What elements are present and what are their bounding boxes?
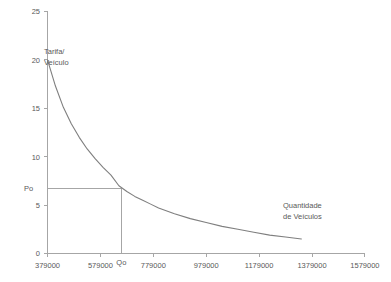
x-tick-label-1579000: 1579000 <box>350 261 379 270</box>
equilibrium-quantity-label: Qo <box>116 258 126 267</box>
y-tick-label-10: 10 <box>32 153 40 162</box>
x-axis-title-line2: de Veículos <box>283 212 322 221</box>
x-axis-title-line1: Quantidade <box>283 201 322 210</box>
x-tick-label-1179000: 1179000 <box>245 261 274 270</box>
y-tick-label-25: 25 <box>32 7 40 16</box>
demand-curve-chart: 0 5 10 15 20 25 379000 579000 779000 979… <box>0 0 391 282</box>
equilibrium-price-label: Po <box>24 184 33 193</box>
y-tick-label-20: 20 <box>32 56 40 65</box>
y-tick-label-15: 15 <box>32 104 40 113</box>
x-tick-label-779000: 779000 <box>141 261 166 270</box>
chart-canvas: 0 5 10 15 20 25 379000 579000 779000 979… <box>0 0 391 282</box>
y-tick-label-0: 0 <box>36 249 40 258</box>
x-tick-label-979000: 979000 <box>194 261 219 270</box>
x-tick-label-579000: 579000 <box>88 261 113 270</box>
x-tick-label-1379000: 1379000 <box>297 261 326 270</box>
y-axis-title-line2: Veículo <box>44 58 69 67</box>
x-tick-label-379000: 379000 <box>35 261 60 270</box>
y-axis-title-line1: Tarifa/ <box>44 47 65 56</box>
y-tick-label-5: 5 <box>36 201 40 210</box>
chart-background <box>0 0 391 282</box>
